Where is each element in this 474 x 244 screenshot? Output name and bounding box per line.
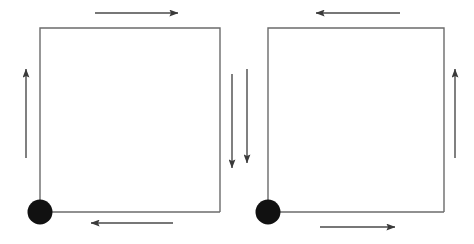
right-square-loop-path (268, 28, 444, 212)
arrows-layer (26, 13, 455, 227)
right-square-loop-node-dot (256, 200, 281, 225)
loops-layer (40, 28, 444, 212)
left-square-loop-node-dot (28, 200, 53, 225)
left-square-loop-path (40, 28, 220, 212)
figure-canvas (0, 0, 474, 244)
loop-diagram (0, 0, 474, 244)
